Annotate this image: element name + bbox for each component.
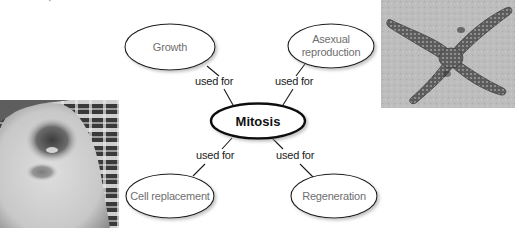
connector-cell-replacement-upper [222,138,232,149]
connector-regeneration-upper [272,138,283,149]
connector-regeneration-lower [300,164,313,177]
asexual-reproduction-label: Asexual reproduction [302,33,361,59]
edge-label-asexual: used for [275,75,313,87]
connector-growth-lower [224,89,233,105]
mitosis-label: Mitosis [236,114,281,129]
edge-label-cell-replacement: used for [196,149,234,161]
regeneration-label: Regeneration [302,190,366,203]
cell-replacement-label: Cell replacement [130,190,209,203]
edge-label-regeneration: used for [276,149,314,161]
asexual-reproduction-label-line1: Asexual [302,33,361,46]
edge-label-growth: used for [195,75,233,87]
clipped-caption-fragment: · [48,0,51,6]
growth-label: Growth [153,41,187,54]
asexual-reproduction-label-line2: reproduction [302,46,361,59]
connector-asexual-lower [283,89,293,105]
connector-cell-replacement-lower [193,164,205,176]
